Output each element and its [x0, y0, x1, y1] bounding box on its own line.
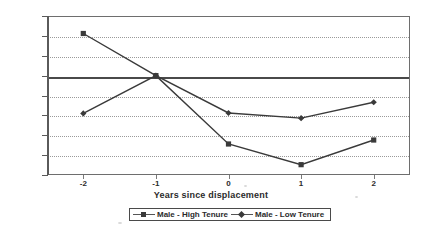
y-axis-tick [42, 96, 48, 97]
line-chart: 150001000050000-5000-10000-15000-20000-2… [0, 0, 422, 234]
y-axis-tick [42, 16, 48, 17]
gridline [48, 116, 409, 117]
y-axis-tick [42, 76, 48, 77]
legend-entry: Male - Low Tenure [231, 210, 327, 219]
y-axis-tick [42, 155, 48, 156]
gridline [48, 57, 409, 58]
y-axis-tick [42, 56, 48, 57]
x-axis-tick-label: 2 [359, 179, 389, 188]
x-axis-tick-label: 0 [214, 179, 244, 188]
y-axis-tick [42, 115, 48, 116]
gridline [48, 136, 409, 137]
legend: Male - High TenureMale - Low Tenure [129, 208, 331, 221]
x-axis-tick-label: 1 [286, 179, 316, 188]
x-axis-title: Years since displacement [0, 190, 422, 200]
x-axis-tick-label: -1 [141, 179, 171, 188]
legend-square-icon [133, 210, 155, 219]
gridline [48, 97, 409, 98]
scan-speckle [244, 185, 247, 187]
plot-area [47, 16, 410, 175]
y-axis-tick [42, 135, 48, 136]
y-axis-tick [42, 175, 48, 176]
legend-entry: Male - High Tenure [133, 210, 231, 219]
scan-speckle [118, 222, 122, 224]
y-axis-tick [42, 36, 48, 37]
x-axis-tick-label: -2 [68, 179, 98, 188]
legend-label: Male - High Tenure [157, 210, 228, 219]
gridline [48, 156, 409, 157]
scan-speckle [355, 196, 358, 198]
zero-line [48, 77, 409, 79]
gridline [48, 37, 409, 38]
legend-label: Male - Low Tenure [255, 210, 324, 219]
legend-diamond-icon [231, 210, 253, 219]
